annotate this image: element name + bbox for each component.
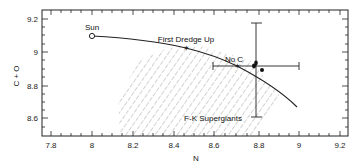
svg-text:8: 8: [90, 141, 95, 150]
svg-text:8.8: 8.8: [253, 141, 265, 150]
x-axis-title: N: [193, 154, 199, 163]
svg-text:8.2: 8.2: [127, 141, 139, 150]
svg-text:9.2: 9.2: [334, 141, 346, 150]
sun-label: Sun: [85, 23, 99, 32]
y-tick-labels: 9.2 9 8.8 8.6: [27, 15, 39, 123]
svg-text:8.4: 8.4: [168, 141, 180, 150]
no-c-label: No C: [225, 55, 243, 64]
svg-text:8.8: 8.8: [27, 82, 39, 91]
svg-text:9: 9: [34, 48, 39, 57]
fk-supergiants-label: F-K Supergiants: [184, 114, 242, 123]
svg-text:9: 9: [297, 141, 302, 150]
svg-text:8.6: 8.6: [27, 114, 39, 123]
chart: 7.8 8 8.2 8.4 8.6 8.8 9 9.2 9.2 9 8.8 8.…: [0, 0, 364, 166]
first-dredge-up-star-icon: ✶: [183, 44, 190, 53]
svg-text:8.6: 8.6: [208, 141, 220, 150]
sun-marker-icon: [89, 33, 94, 38]
x-tick-labels: 7.8 8 8.2 8.4 8.6 8.8 9 9.2: [45, 141, 346, 150]
svg-text:9.2: 9.2: [27, 15, 39, 24]
y-axis-title: C + O: [12, 65, 21, 86]
svg-text:7.8: 7.8: [45, 141, 57, 150]
first-dredge-up-label: First Dredge Up: [158, 35, 215, 44]
